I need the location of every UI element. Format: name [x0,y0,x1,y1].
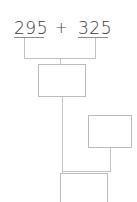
answer-box-3[interactable] [60,173,108,202]
worksheet-canvas: 295 + 325 [0,0,137,202]
bracket-left-leg [24,38,25,59]
addend-2: 325 [78,18,112,38]
addend-1: 295 [14,18,48,38]
connector-spine [62,97,63,171]
answer-box-2[interactable] [88,115,132,148]
expression-row: 295 + 325 [0,18,137,38]
answer-box-1[interactable] [38,64,86,97]
connector-box2-drop [110,148,111,171]
plus-operator-icon: + [55,18,68,38]
connector-box2-to-spine [62,171,111,172]
addend-1-underline [14,37,44,38]
bracket-right-leg [95,38,96,59]
addend-2-underline [78,37,108,38]
